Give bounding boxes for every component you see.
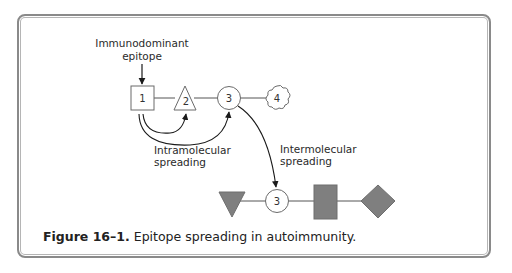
intermolecular-arrow [238,106,276,187]
epitope-filled-diamond [361,185,395,218]
figure-caption: Figure 16–1.Epitope spreading in autoimm… [43,229,356,244]
svg-text:3: 3 [226,93,232,104]
epitope-label: epitope [122,50,162,62]
intramolecular-label-line2: spreading [154,156,206,168]
immunodominant-label: Immunodominant [95,37,188,49]
intramolecular-arrow-to-3 [139,112,229,145]
epitope-1-square: 1 [131,86,154,110]
epitope-filled-rectangle [314,185,337,219]
intermolecular-label: Intermolecular [280,143,357,155]
epitope-4-cloud: 4 [266,85,290,109]
intramolecular-label: Intramolecular [154,144,231,156]
intermolecular-label-line2: spreading [280,155,332,167]
svg-text:1: 1 [139,93,145,104]
intramolecular-arrow-to-2 [143,114,186,133]
epitope-3-circle: 3 [218,87,241,110]
svg-text:3: 3 [274,196,280,207]
svg-text:2: 2 [183,96,189,107]
epitope-2-triangle: 2 [174,86,196,110]
svg-text:4: 4 [274,93,280,104]
epitope-3-circle-second-protein: 3 [266,190,289,213]
epitope-inverted-triangle [219,192,245,217]
caption-text: Epitope spreading in autoimmunity. [134,229,357,244]
figure-number: Figure 16–1. [43,229,130,244]
